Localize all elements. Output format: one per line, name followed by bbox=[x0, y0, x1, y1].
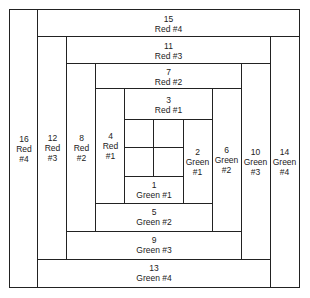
block-5-green-2: 5 Green #2 bbox=[95, 202, 213, 232]
block-color: Red bbox=[74, 143, 90, 153]
block-label: Green #3 bbox=[136, 245, 171, 255]
block-number: 1 bbox=[152, 180, 157, 190]
block-color: Red bbox=[45, 143, 61, 153]
block-number: 5 bbox=[152, 207, 157, 217]
block-8-red-2: 8 Red #2 bbox=[66, 63, 97, 232]
block-4-red-1: 4 Red #1 bbox=[95, 88, 126, 204]
block-6-green-2: 6 Green #2 bbox=[211, 88, 242, 232]
block-12-red-3: 12 Red #3 bbox=[37, 36, 68, 260]
block-number: 14 bbox=[280, 147, 289, 157]
block-label: Red #4 bbox=[155, 24, 182, 34]
center-cell-top-right bbox=[153, 119, 184, 149]
block-7-red-2: 7 Red #2 bbox=[95, 63, 242, 90]
block-number: 13 bbox=[149, 263, 158, 273]
block-tier: #1 bbox=[193, 167, 202, 177]
block-label: Green #2 bbox=[136, 217, 171, 227]
block-label: Red #3 bbox=[155, 51, 182, 61]
block-color: Red bbox=[103, 141, 119, 151]
block-16-red-4: 16 Red #4 bbox=[9, 9, 39, 288]
block-color: Green bbox=[215, 155, 239, 165]
block-number: 9 bbox=[152, 235, 157, 245]
block-2-green-1: 2 Green #1 bbox=[182, 119, 213, 204]
block-number: 10 bbox=[251, 147, 260, 157]
block-13-green-4: 13 Green #4 bbox=[37, 258, 271, 288]
block-tier: #3 bbox=[48, 153, 57, 163]
block-number: 2 bbox=[195, 147, 200, 157]
block-label: Red #2 bbox=[155, 77, 182, 87]
block-11-red-3: 11 Red #3 bbox=[66, 36, 271, 65]
block-tier: #4 bbox=[19, 154, 28, 164]
block-tier: #2 bbox=[77, 153, 86, 163]
block-3-red-1: 3 Red #1 bbox=[124, 88, 213, 121]
block-color: Red bbox=[16, 144, 32, 154]
block-tier: #3 bbox=[251, 167, 260, 177]
block-1-green-1: 1 Green #1 bbox=[124, 175, 184, 204]
block-number: 12 bbox=[48, 133, 57, 143]
block-color: Green bbox=[186, 157, 210, 167]
block-tier: #4 bbox=[280, 167, 289, 177]
center-cell-bottom-left bbox=[124, 147, 155, 177]
block-number: 16 bbox=[19, 134, 28, 144]
block-color: Green bbox=[273, 157, 297, 167]
block-number: 15 bbox=[164, 14, 173, 24]
block-number: 4 bbox=[108, 131, 113, 141]
block-number: 8 bbox=[79, 133, 84, 143]
block-number: 6 bbox=[224, 145, 229, 155]
block-14-green-4: 14 Green #4 bbox=[269, 36, 300, 288]
block-number: 11 bbox=[164, 41, 173, 51]
block-tier: #1 bbox=[106, 151, 115, 161]
block-number: 3 bbox=[166, 95, 171, 105]
block-label: Green #1 bbox=[136, 190, 171, 200]
block-tier: #2 bbox=[222, 165, 231, 175]
center-cell-top-left bbox=[124, 119, 155, 149]
block-9-green-3: 9 Green #3 bbox=[66, 230, 242, 260]
block-number: 7 bbox=[166, 67, 171, 77]
block-10-green-3: 10 Green #3 bbox=[240, 63, 271, 260]
block-label: Green #4 bbox=[136, 273, 171, 283]
block-15-red-4: 15 Red #4 bbox=[37, 9, 300, 38]
block-label: Red #1 bbox=[155, 105, 182, 115]
block-color: Green bbox=[244, 157, 268, 167]
center-cell-bottom-right bbox=[153, 147, 184, 177]
